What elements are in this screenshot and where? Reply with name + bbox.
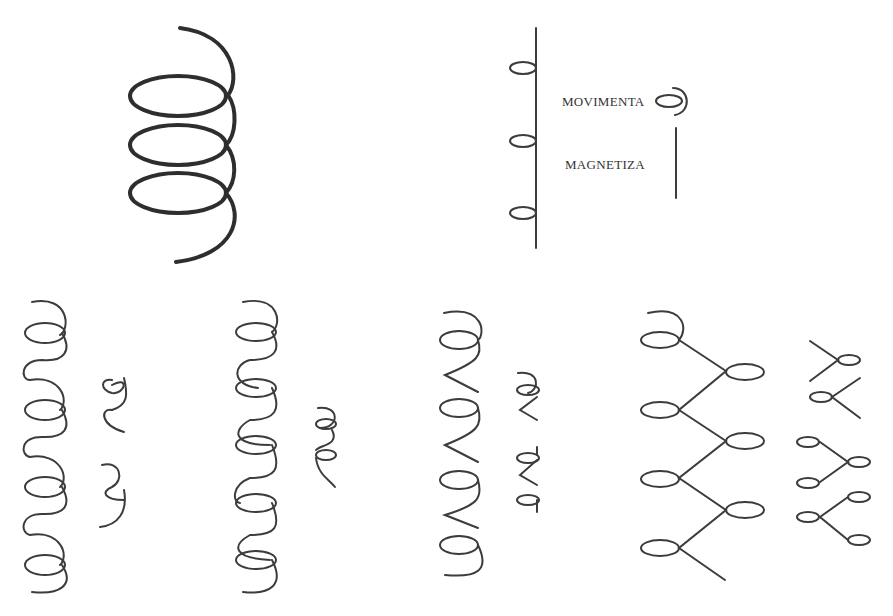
legend-label-movimenta: MOVIMENTA <box>562 94 645 110</box>
spiral-diagram <box>0 0 893 616</box>
legend-label-magnetiza: MAGNETIZA <box>565 157 645 173</box>
large-helix-figure <box>130 28 235 262</box>
legend-movimenta-symbol <box>656 88 687 115</box>
column-4-small-branches <box>797 341 870 545</box>
column-2-small-spiral <box>316 408 336 487</box>
column-1-spiral <box>24 301 67 592</box>
line-with-loops-figure <box>510 28 536 248</box>
column-2-spiral <box>235 301 277 593</box>
column-4-branching-spiral <box>641 311 764 580</box>
column-3-zigzag-spiral <box>440 312 483 576</box>
column-1-small-spirals <box>100 378 126 527</box>
column-3-small-spirals <box>517 373 539 512</box>
